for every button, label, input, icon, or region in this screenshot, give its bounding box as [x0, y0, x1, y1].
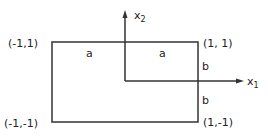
corner-label-top-right: (1, 1) — [203, 38, 233, 49]
axis-label-x2: x2 — [134, 10, 146, 24]
corner-label-top-left: (-1,1) — [8, 38, 38, 49]
x1-arrow-icon — [236, 79, 244, 84]
side-label-a-left: a — [86, 48, 93, 59]
x2-arrow-icon — [123, 10, 128, 18]
side-label-b-lower: b — [202, 95, 209, 106]
side-label-b-upper: b — [202, 61, 209, 72]
axis-label-x1: x1 — [247, 76, 259, 90]
corner-label-bottom-left: (-1,-1) — [4, 118, 38, 129]
corner-label-bottom-right: (1,-1) — [203, 117, 233, 128]
side-label-a-right: a — [159, 48, 166, 59]
